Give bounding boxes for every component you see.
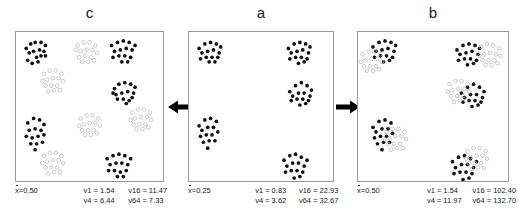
data-point — [91, 114, 95, 118]
data-point — [35, 142, 39, 146]
data-point — [123, 154, 127, 158]
data-point — [446, 90, 450, 94]
panel-a-v16: v16 = 22.93 — [299, 186, 338, 196]
data-point — [35, 55, 39, 59]
data-point — [94, 121, 98, 125]
data-point — [299, 155, 303, 159]
data-point — [297, 61, 301, 65]
data-point — [383, 39, 387, 43]
data-point — [36, 134, 40, 138]
data-point — [481, 154, 485, 158]
data-point — [79, 50, 83, 54]
data-point — [82, 41, 86, 45]
data-point — [26, 121, 30, 125]
data-point — [397, 127, 401, 131]
data-point — [380, 127, 384, 131]
data-point — [117, 54, 121, 58]
panel-c-plot-area — [15, 31, 164, 182]
data-point — [481, 58, 485, 62]
panel-a-scatter — [189, 32, 333, 181]
data-point — [305, 158, 309, 162]
data-point — [42, 133, 46, 137]
data-point — [391, 127, 395, 131]
data-point — [304, 102, 308, 106]
data-point — [466, 63, 470, 67]
data-point — [216, 55, 220, 59]
data-point — [391, 131, 395, 135]
data-point — [33, 127, 37, 131]
data-point — [130, 111, 134, 115]
data-point — [389, 121, 393, 125]
data-point — [302, 164, 306, 168]
panel-a-plot-area — [188, 31, 334, 182]
data-point — [114, 161, 118, 165]
data-point — [41, 161, 45, 165]
data-point — [36, 60, 40, 64]
data-point — [299, 81, 303, 85]
data-point — [367, 50, 371, 54]
data-point — [58, 88, 62, 92]
data-point — [209, 117, 213, 121]
data-point — [30, 61, 34, 65]
data-point — [39, 54, 43, 58]
data-point — [92, 58, 96, 62]
data-point — [61, 79, 65, 83]
panel-a-stats: x=0.25 v1 = 0.83 v4 = 3.62 v16 = 22.93 v… — [188, 186, 334, 212]
data-point — [138, 123, 142, 127]
panel-b: b x=0.50 v1 = 1.54 v4 = 11.97 v16 = 102.… — [357, 31, 509, 182]
data-point — [129, 82, 133, 86]
data-point — [385, 54, 389, 58]
data-point — [123, 81, 127, 85]
data-point — [400, 134, 404, 138]
data-point — [149, 118, 153, 122]
data-point — [27, 128, 31, 132]
data-point — [449, 94, 453, 98]
figure-root: c x=0.50 v1 = 1.54 v4 = 6.44 v16 = 11.47… — [0, 0, 524, 216]
data-point — [476, 103, 480, 107]
data-point — [82, 123, 86, 127]
data-point — [39, 128, 43, 132]
panel-a-mean: x=0.25 — [188, 186, 211, 196]
data-point — [484, 149, 488, 153]
data-point — [457, 87, 461, 91]
data-point — [121, 175, 125, 179]
data-point — [144, 123, 148, 127]
data-point — [204, 133, 208, 137]
panel-b-v16-v64: v16 = 102.40 v64 = 132.70 — [473, 186, 517, 205]
data-point — [307, 99, 311, 103]
data-point — [461, 44, 465, 48]
data-point — [460, 163, 464, 167]
panel-c-stats: x=0.50 v1 = 1.54 v4 = 6.44 v16 = 11.47 v… — [15, 186, 164, 212]
data-point — [88, 41, 92, 45]
data-point — [361, 52, 365, 56]
data-point — [127, 41, 131, 45]
data-point — [294, 55, 298, 59]
data-point — [129, 118, 133, 122]
data-point — [213, 139, 217, 143]
data-point — [364, 58, 368, 62]
data-point — [51, 76, 55, 80]
data-point — [86, 60, 90, 64]
data-point — [121, 39, 125, 43]
data-point — [126, 90, 130, 94]
data-point — [133, 117, 137, 121]
data-point — [41, 140, 45, 144]
data-point — [199, 57, 203, 61]
data-point — [304, 42, 308, 46]
panel-c-v4: v4 = 6.44 — [84, 196, 115, 206]
data-point — [58, 170, 62, 174]
data-point — [388, 136, 392, 140]
data-point — [475, 154, 479, 158]
panel-c-mean-value: =0.50 — [19, 186, 38, 195]
data-point — [362, 64, 366, 68]
data-point — [79, 117, 83, 121]
data-point — [61, 161, 65, 165]
data-point — [452, 100, 456, 104]
data-point — [120, 60, 124, 64]
data-point — [478, 85, 482, 89]
data-point — [32, 117, 36, 121]
data-point — [74, 48, 78, 52]
data-point — [403, 130, 407, 134]
data-point — [494, 52, 498, 56]
data-point — [33, 41, 37, 45]
